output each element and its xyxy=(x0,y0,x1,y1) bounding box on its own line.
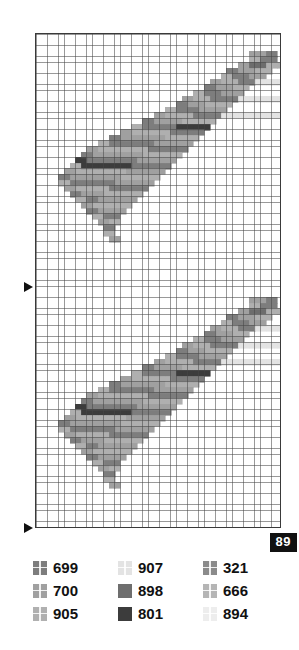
legend-label-699: 699 xyxy=(53,559,78,576)
legend-row: 700 898 666 xyxy=(33,579,288,602)
legend-swatch-905 xyxy=(33,607,47,621)
legend-label-907: 907 xyxy=(138,559,163,576)
legend-item-907[interactable]: 907 xyxy=(118,559,203,576)
raster-map-canvas xyxy=(36,34,281,528)
legend-item-321[interactable]: 321 xyxy=(203,559,288,576)
legend-item-894[interactable]: 894 xyxy=(203,605,288,622)
legend-item-905[interactable]: 905 xyxy=(33,605,118,622)
legend-swatch-321 xyxy=(203,561,217,575)
legend-label-801: 801 xyxy=(138,605,163,622)
legend-label-894: 894 xyxy=(223,605,248,622)
figure-root: 89 699 907 321 700 898 xyxy=(0,0,299,650)
legend-label-321: 321 xyxy=(223,559,248,576)
legend-swatch-898 xyxy=(118,584,132,598)
legend-label-700: 700 xyxy=(53,582,78,599)
legend-item-699[interactable]: 699 xyxy=(33,559,118,576)
legend-swatch-699 xyxy=(33,561,47,575)
legend-swatch-907 xyxy=(118,561,132,575)
legend-row: 905 801 894 xyxy=(33,602,288,625)
legend-item-666[interactable]: 666 xyxy=(203,582,288,599)
legend-row: 699 907 321 xyxy=(33,556,288,579)
legend-label-666: 666 xyxy=(223,582,248,599)
legend-item-700[interactable]: 700 xyxy=(33,582,118,599)
legend-swatch-801 xyxy=(118,607,132,621)
legend-label-898: 898 xyxy=(138,582,163,599)
page-number-badge: 89 xyxy=(270,533,297,552)
legend-item-801[interactable]: 801 xyxy=(118,605,203,622)
tick-arrow-mid-icon xyxy=(24,282,33,292)
legend-swatch-700 xyxy=(33,584,47,598)
legend-swatch-894 xyxy=(203,607,217,621)
legend-swatch-666 xyxy=(203,584,217,598)
tick-arrow-bottom-icon xyxy=(24,523,33,533)
legend-label-905: 905 xyxy=(53,605,78,622)
legend-item-898[interactable]: 898 xyxy=(118,582,203,599)
raster-map-panel[interactable] xyxy=(35,33,281,528)
map-legend: 699 907 321 700 898 666 xyxy=(33,556,288,625)
